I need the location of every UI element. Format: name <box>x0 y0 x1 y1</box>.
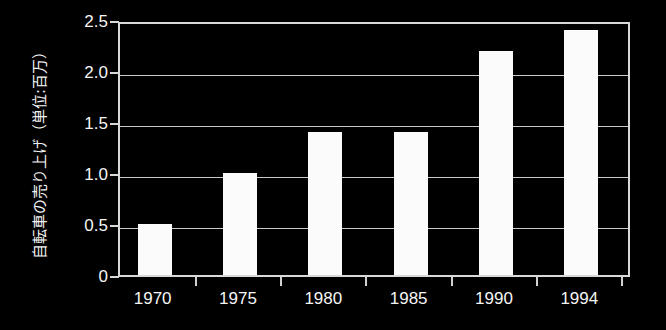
x-axis-tick-label: 1975 <box>219 289 257 309</box>
y-axis-tick-label: 2.5 <box>84 12 108 32</box>
x-axis-tick-label: 1985 <box>390 289 428 309</box>
x-axis-tick-mark <box>365 277 367 286</box>
bar <box>394 132 428 275</box>
bar-chart: 自転車の売り上げ（単位:百万） 00.51.01.52.02.5 1970197… <box>0 0 666 330</box>
x-axis-tick-mark <box>451 277 453 286</box>
y-axis-title-text: 自転車の売り上げ（単位:百万） <box>29 43 50 258</box>
y-axis-tick-mark <box>110 123 119 125</box>
bar <box>308 132 342 275</box>
bars-layer <box>120 24 628 275</box>
y-axis-tick-mark <box>110 276 119 278</box>
bar <box>479 51 513 275</box>
y-axis-tick-mark <box>110 72 119 74</box>
x-axis-tick-mark <box>280 277 282 286</box>
bar <box>138 224 172 275</box>
plot-area <box>118 22 630 277</box>
y-axis-tick-label: 2.0 <box>84 63 108 83</box>
y-axis-tick-mark <box>110 21 119 23</box>
bar <box>223 173 257 275</box>
x-axis-tick-mark <box>195 277 197 286</box>
x-axis-tick-label: 1990 <box>475 289 513 309</box>
y-axis-tick-label: 0.5 <box>84 216 108 236</box>
x-axis: 197019751980198519901994 <box>118 277 630 327</box>
x-axis-tick-mark <box>621 277 623 286</box>
x-axis-tick-label: 1980 <box>304 289 342 309</box>
bar <box>564 30 598 275</box>
x-axis-tick-mark <box>536 277 538 286</box>
y-axis-tick-label: 1.5 <box>84 114 108 134</box>
y-axis-title: 自転車の売り上げ（単位:百万） <box>20 20 58 282</box>
y-axis-tick-label: 1.0 <box>84 165 108 185</box>
x-axis-tick-label: 1970 <box>134 289 172 309</box>
y-axis-tick-mark <box>110 225 119 227</box>
x-axis-tick-label: 1994 <box>560 289 598 309</box>
y-axis-tick-mark <box>110 174 119 176</box>
y-axis-tick-labels: 00.51.01.52.02.5 <box>56 0 112 330</box>
y-axis-tick-label: 0 <box>99 267 108 287</box>
